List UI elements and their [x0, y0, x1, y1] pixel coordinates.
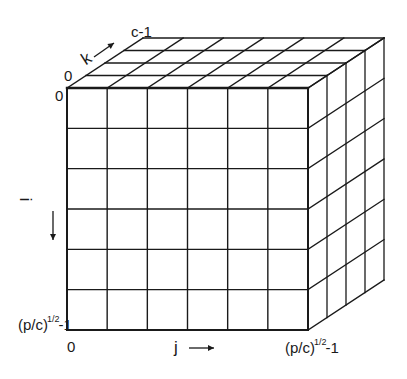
i-axis-label: i: [17, 198, 34, 202]
k-start-label: 0: [64, 68, 72, 83]
i-end-suffix: -1: [59, 316, 72, 333]
i-end-base: (p/c): [18, 316, 48, 333]
down-arrow-icon: [50, 211, 56, 240]
i-start-label: 0: [55, 88, 63, 103]
j-end-label: (p/c)1/2-1: [285, 340, 339, 355]
diagonal-double-arrow-icon: [94, 43, 114, 57]
j-end-base: (p/c): [285, 339, 315, 356]
i-end-label: (p/c)1/2-1: [18, 317, 72, 332]
j-start-label: 0: [67, 339, 75, 354]
j-end-exponent: 1/2: [314, 337, 327, 347]
j-end-suffix: -1: [326, 339, 339, 356]
i-end-exponent: 1/2: [47, 314, 60, 324]
right-arrow-icon: [189, 345, 214, 351]
j-axis-label: j: [174, 339, 178, 356]
k-end-label: c-1: [131, 24, 152, 39]
